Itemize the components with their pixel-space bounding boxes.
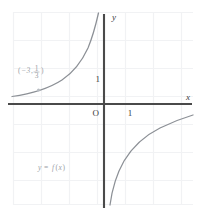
x-tick-label-1: 1 — [128, 108, 133, 118]
labeled-point-x-value: 3 — [26, 66, 31, 75]
function-label-annotation: y = f ( x ) — [37, 163, 66, 172]
origin-label: O — [93, 108, 100, 118]
coordinate-plane: y x O 1 1 ( − 3 , 1 3 ) y = f ( x ) — [0, 0, 205, 217]
labeled-point-comma: , — [31, 66, 33, 75]
function-label-y: y — [37, 163, 42, 172]
labeled-point-minus-sign: − — [22, 66, 26, 75]
y-axis-label: y — [111, 12, 116, 22]
figure-background — [0, 0, 205, 217]
x-axis-label: x — [185, 92, 190, 102]
point-marker — [37, 89, 40, 92]
labeled-point-fraction-denominator: 3 — [35, 71, 39, 80]
function-label-equals: = — [44, 163, 48, 172]
graph-figure: y x O 1 1 ( − 3 , 1 3 ) y = f ( x ) — [0, 0, 205, 217]
y-tick-label-1: 1 — [96, 74, 101, 84]
